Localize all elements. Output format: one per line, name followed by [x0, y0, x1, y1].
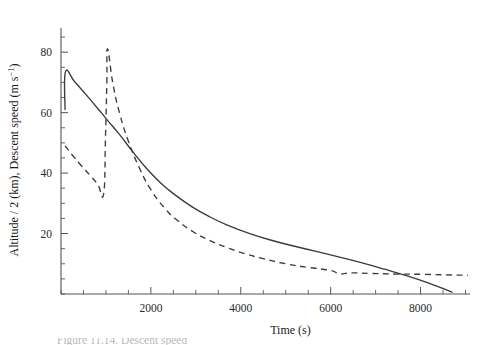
axis-group [61, 28, 470, 294]
caption-strip: Figure 11.14. Descent speed [0, 338, 479, 345]
y-axis-title-exponent: −1 [6, 67, 16, 76]
y-axis-title: Altitude / 2 (km), Descent speed (m s−1) [6, 63, 21, 256]
y-axis-title-main: Altitude / 2 (km), Descent speed (m s [7, 76, 21, 256]
x-tick-label: 4000 [229, 302, 252, 314]
y-tick-label: 60 [41, 107, 53, 119]
y-axis-tick-labels: 20406080 [41, 46, 53, 239]
y-tick-label: 80 [41, 46, 53, 58]
x-axis-ticks [61, 287, 466, 294]
descent-speed-altitude-chart: 20406080 2000400060008000 Time (s) Altit… [0, 0, 479, 345]
svg-text:Altitude / 2 (km), Descent sp: Altitude / 2 (km), Descent speed (m s−1) [6, 63, 21, 256]
y-tick-label: 20 [41, 228, 53, 240]
caption-fragment: Figure 11.14. Descent speed [57, 338, 187, 345]
figure-panel: 20406080 2000400060008000 Time (s) Altit… [0, 0, 479, 345]
series-altitude-line [64, 70, 452, 292]
x-axis-title: Time (s) [270, 323, 311, 337]
y-axis-title-close: ) [7, 63, 21, 67]
series-descent-speed-line [65, 49, 468, 276]
x-tick-label: 8000 [409, 302, 432, 314]
x-axis-tick-labels: 2000400060008000 [139, 302, 432, 314]
y-tick-label: 40 [41, 167, 53, 179]
x-tick-label: 6000 [319, 302, 342, 314]
x-tick-label: 2000 [139, 302, 162, 314]
